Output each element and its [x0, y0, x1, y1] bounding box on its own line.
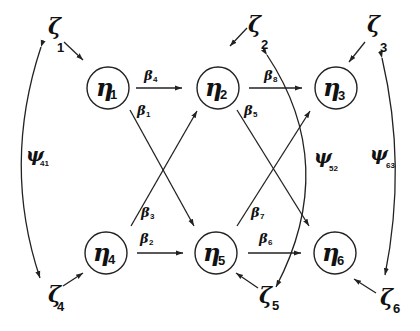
label-zeta3: ζ 3: [367, 11, 387, 55]
beta-subscript: 3: [150, 212, 155, 221]
node-eta5: η 5: [195, 232, 237, 274]
arrow-zeta3-eta3: [349, 42, 365, 62]
node-subscript: 6: [337, 253, 344, 268]
arrow-zeta5-eta5: [236, 273, 258, 288]
node-eta6: η 6: [314, 232, 356, 274]
beta-symbol: β: [263, 68, 273, 83]
psi-subscript: 41: [40, 159, 49, 168]
zeta-symbol: ζ: [48, 13, 62, 39]
beta-symbol: β: [140, 205, 150, 220]
zeta-subscript: 2: [261, 37, 268, 52]
label-beta7: β 7: [250, 205, 265, 221]
label-beta8: β 8: [263, 68, 278, 84]
node-subscript: 2: [220, 87, 227, 102]
label-zeta4: ζ 4: [48, 281, 65, 314]
psi-subscript: 52: [329, 164, 338, 173]
path-diagram: η 1 η 2 η 3 η 4 η 5 η 6: [0, 0, 420, 331]
label-zeta1: ζ 1: [48, 13, 64, 55]
beta-subscript: 4: [153, 75, 158, 84]
node-subscript: 5: [218, 253, 225, 268]
beta-subscript: 5: [253, 110, 258, 119]
label-beta2: β 2: [139, 231, 154, 247]
label-beta5: β 5: [243, 103, 258, 119]
arrow-zeta2-eta2: [230, 28, 247, 46]
arrow-zeta4-eta4: [63, 273, 83, 286]
node-subscript: 3: [338, 88, 345, 103]
label-psi41: ψ 41: [26, 143, 49, 168]
node-subscript: 1: [110, 87, 117, 102]
curve-psi52: [267, 55, 306, 287]
beta-symbol: β: [250, 205, 260, 220]
label-zeta6: ζ 6: [380, 284, 400, 316]
beta-subscript: 1: [146, 110, 151, 119]
label-beta4: β 4: [143, 68, 158, 84]
beta-subscript: 8: [273, 75, 278, 84]
beta-symbol: β: [136, 103, 146, 118]
zeta-symbol: ζ: [367, 11, 381, 37]
arrow-zeta1-eta1: [64, 42, 83, 60]
beta-subscript: 6: [268, 238, 273, 247]
node-eta1: η 1: [87, 67, 129, 109]
zeta-subscript: 1: [57, 40, 64, 55]
label-psi52: ψ 52: [314, 145, 338, 173]
zeta-symbol: ζ: [259, 282, 273, 308]
arrow-zeta6-eta6: [354, 279, 376, 293]
label-zeta2: ζ 2: [248, 11, 268, 52]
label-beta1: β 1: [136, 103, 151, 119]
beta-subscript: 2: [149, 238, 154, 247]
beta-symbol: β: [258, 231, 268, 246]
psi-subscript: 63: [386, 161, 395, 170]
node-eta4: η 4: [85, 232, 127, 274]
zeta-subscript: 5: [272, 298, 279, 313]
label-beta6: β 6: [258, 231, 273, 247]
arrow-beta1: [130, 110, 194, 226]
beta-paths: [130, 88, 310, 253]
node-eta2: η 2: [197, 67, 239, 109]
beta-subscript: 7: [260, 212, 265, 221]
beta-symbol: β: [139, 231, 149, 246]
zeta-symbol: ζ: [380, 284, 394, 310]
node-eta3: η 3: [315, 67, 357, 109]
label-psi63: ψ 63: [370, 142, 395, 170]
zeta-subscript: 6: [393, 301, 400, 316]
node-subscript: 4: [108, 252, 116, 267]
zeta-subscript: 3: [380, 40, 387, 55]
zeta-subscript: 4: [57, 299, 65, 314]
psi-labels: ψ 41 ψ 52 ψ 63: [26, 142, 395, 173]
beta-symbol: β: [243, 103, 253, 118]
beta-symbol: β: [143, 68, 153, 83]
label-beta3: β 3: [140, 205, 155, 221]
eta-nodes: η 1 η 2 η 3 η 4 η 5 η 6: [85, 67, 357, 274]
zeta-symbol: ζ: [248, 11, 262, 37]
